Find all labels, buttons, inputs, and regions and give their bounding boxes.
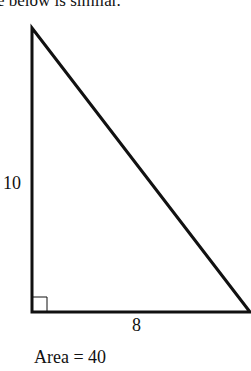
right-angle-marker — [32, 297, 47, 312]
right-triangle-diagram — [0, 0, 251, 371]
area-label: Area = 40 — [34, 348, 106, 366]
height-label: 10 — [3, 174, 21, 192]
base-label: 8 — [132, 316, 141, 334]
triangle-shape — [32, 28, 250, 312]
